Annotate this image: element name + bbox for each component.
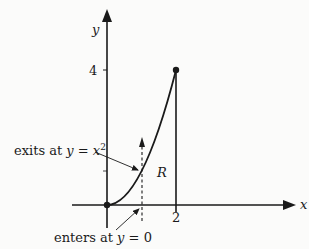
region-diagram: x y 4 2 R exits at y = x2 enters (0, 0, 309, 249)
y-axis-arrowhead-icon (102, 9, 112, 22)
y-axis: y 4 (89, 9, 112, 228)
enters-label: enters at y = 0 (54, 230, 152, 245)
dashed-arrowhead-icon (139, 137, 145, 147)
region-label: R (156, 165, 167, 180)
exits-annotation: exits at y = x2 (14, 142, 138, 170)
exits-arrow (95, 152, 138, 170)
enters-arrow (116, 209, 139, 230)
curve-y-equals-x-squared (107, 70, 176, 205)
x-axis-arrowhead-icon (283, 200, 296, 210)
dashed-vertical-line (139, 137, 145, 221)
endpoint-dot (173, 67, 179, 73)
x-axis-label: x (300, 197, 308, 212)
origin-dot (104, 202, 110, 208)
enters-annotation: enters at y = 0 (54, 209, 152, 245)
boundary-x-2: 2 (172, 70, 180, 225)
exits-label: exits at y = x2 (14, 142, 106, 158)
x-tick-label-2: 2 (172, 210, 180, 225)
y-axis-label: y (91, 22, 100, 37)
y-tick-label-4: 4 (89, 63, 97, 78)
